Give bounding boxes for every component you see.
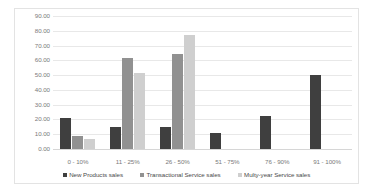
legend-item[interactable]: Transactional Service sales [140,172,221,178]
bar-group [103,9,153,149]
y-axis-tick-label: 10.00 [16,131,50,137]
legend-swatch-icon [140,173,144,177]
bar[interactable] [260,116,271,149]
legend-label: New Products sales [69,172,123,178]
y-axis-tick-label: 90.00 [16,13,50,19]
y-axis: 90.0080.0070.0060.0050.0040.0030.0020.00… [15,9,53,155]
bar-group [202,9,252,149]
x-axis-tick-label: 51 - 75% [202,156,252,168]
y-axis-tick-label: 80.00 [16,28,50,34]
y-axis-tick-label: 40.00 [16,87,50,93]
x-axis-tick-label: 26 - 50% [153,156,203,168]
x-axis-tick-label: 76 - 90% [252,156,302,168]
x-axis-tick-label: 0 - 10% [53,156,103,168]
bar[interactable] [310,75,321,149]
bar-chart-card: 90.0080.0070.0060.0050.0040.0030.0020.00… [14,8,359,184]
axis-baseline [53,149,352,150]
chart-legend: New Products salesTransactional Service … [15,169,358,181]
bar-group [53,9,103,149]
x-axis-tick-label: 11 - 25% [103,156,153,168]
legend-label: Transactional Service sales [146,172,220,178]
x-axis-tick-label: 91 - 100% [302,156,352,168]
y-axis-tick-label: 30.00 [16,102,50,108]
bar[interactable] [210,133,221,149]
bar[interactable] [172,54,183,149]
x-axis: 0 - 10%11 - 25%26 - 50%51 - 75%76 - 90%9… [53,156,352,168]
plot-wrapper: 90.0080.0070.0060.0050.0040.0030.0020.00… [15,9,358,155]
bar[interactable] [134,73,145,149]
bar[interactable] [160,127,171,149]
bar[interactable] [84,139,95,149]
legend-item[interactable]: New Products sales [63,172,123,178]
legend-item[interactable]: Multy-year Service sales [238,172,311,178]
y-axis-tick-label: 50.00 [16,72,50,78]
legend-swatch-icon [63,173,67,177]
y-axis-tick-label: 60.00 [16,57,50,63]
bar-groups [53,9,352,149]
bar[interactable] [60,118,71,149]
y-axis-tick-label: 0.00 [16,146,50,152]
bar[interactable] [184,35,195,149]
legend-label: Multy-year Service sales [244,172,310,178]
bar-group [302,9,352,149]
legend-swatch-icon [238,173,242,177]
bar[interactable] [110,127,121,149]
bar-group [153,9,203,149]
plot-area [53,9,352,155]
y-axis-tick-label: 70.00 [16,42,50,48]
bar[interactable] [122,58,133,149]
bar[interactable] [72,136,83,149]
bar-group [252,9,302,149]
y-axis-tick-label: 20.00 [16,116,50,122]
